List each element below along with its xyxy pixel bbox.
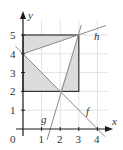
x-tick-3: 3 (76, 133, 82, 145)
x-tick-4: 4 (94, 133, 100, 145)
y-tick-3: 3 (10, 67, 16, 79)
y-axis-arrow-icon (20, 11, 26, 19)
shaded-regions (23, 35, 79, 91)
y-tick-1: 1 (10, 104, 16, 116)
y-axis-label: y (27, 9, 33, 21)
coordinate-diagram: 0 1 2 3 4 1 2 3 4 5 x y f g h (0, 0, 123, 150)
y-tick-4: 4 (10, 48, 16, 60)
y-tick-2: 2 (10, 85, 16, 97)
x-tick-2: 2 (57, 133, 63, 145)
x-axis-label: x (111, 115, 117, 127)
x-tick-1: 1 (39, 133, 45, 145)
line-f-label: f (86, 105, 91, 117)
origin-label: 0 (10, 133, 16, 145)
y-tick-5: 5 (10, 29, 16, 41)
line-g-label: g (41, 113, 47, 125)
line-h-label: h (94, 30, 100, 42)
